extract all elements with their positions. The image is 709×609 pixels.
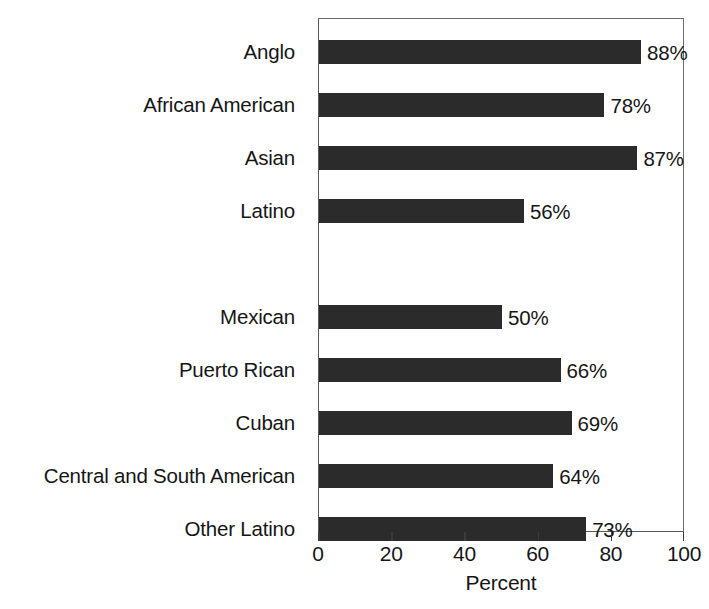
bar-value-label: 87% — [637, 146, 683, 170]
bar-chart: Anglo88%African American78%Asian87%Latin… — [0, 0, 709, 609]
x-axis-tick-label: 40 — [453, 541, 476, 567]
x-axis-tick-label: 80 — [599, 541, 622, 567]
bar — [319, 199, 524, 223]
bar-row: Cuban69% — [0, 411, 709, 435]
category-label: Cuban — [236, 411, 295, 435]
bar-row — [0, 252, 709, 276]
category-label: Puerto Rican — [179, 358, 295, 382]
bar-value-label: 88% — [641, 40, 687, 64]
bar-value-label: 50% — [502, 305, 548, 329]
bar — [319, 411, 572, 435]
x-axis-tick — [683, 532, 685, 541]
bar-row: African American78% — [0, 93, 709, 117]
bar — [319, 358, 561, 382]
category-label: African American — [143, 93, 295, 117]
bar-track: 64% — [319, 464, 685, 488]
bar-track: 88% — [319, 40, 685, 64]
x-axis-tick-label: 100 — [667, 541, 701, 567]
bar-row: Anglo88% — [0, 40, 709, 64]
x-axis-tick-label: 60 — [526, 541, 549, 567]
bar — [319, 146, 637, 170]
bar-track: 66% — [319, 358, 685, 382]
bar — [319, 464, 553, 488]
bar — [319, 305, 502, 329]
bar-track: 87% — [319, 146, 685, 170]
category-label: Other Latino — [185, 517, 295, 541]
x-axis-tick — [391, 532, 393, 541]
x-axis-tick — [611, 532, 613, 541]
bar-value-label: 78% — [604, 93, 650, 117]
x-axis-tick — [464, 532, 466, 541]
x-axis-tick — [538, 532, 540, 541]
category-label: Anglo — [244, 40, 295, 64]
category-label: Mexican — [220, 305, 295, 329]
bar-value-label: 66% — [561, 358, 607, 382]
bar-row: Latino56% — [0, 199, 709, 223]
bar-track: 50% — [319, 305, 685, 329]
bar-track: 78% — [319, 93, 685, 117]
bar-track: 69% — [319, 411, 685, 435]
category-label: Asian — [245, 146, 295, 170]
bar — [319, 93, 604, 117]
x-axis-tick-label: 0 — [312, 541, 323, 567]
x-axis-tick-labels: 020406080100 — [318, 541, 684, 569]
category-label: Central and South American — [44, 464, 295, 488]
x-axis-title: Percent — [318, 570, 684, 596]
bar-row: Puerto Rican66% — [0, 358, 709, 382]
x-axis-tick — [318, 532, 320, 541]
bar-row: Central and South American64% — [0, 464, 709, 488]
bar — [319, 40, 641, 64]
bar-value-label: 56% — [524, 199, 570, 223]
bar-value-label: 69% — [572, 411, 618, 435]
category-label: Latino — [240, 199, 295, 223]
bar-row: Asian87% — [0, 146, 709, 170]
bar-value-label: 64% — [553, 464, 599, 488]
x-axis-tick-label: 20 — [380, 541, 403, 567]
bar-row: Mexican50% — [0, 305, 709, 329]
x-axis-ticks — [318, 532, 684, 541]
bar-track: 56% — [319, 199, 685, 223]
